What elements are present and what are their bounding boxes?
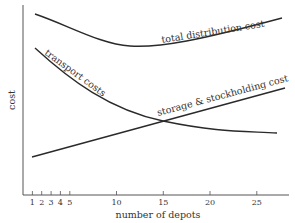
tick-label-4: 4 [58, 198, 63, 207]
tick-label-1: 1 [30, 198, 35, 207]
x-axis-label: number of depots [116, 209, 201, 220]
storage-stockholding-cost-label: storage & stockholding cost [156, 72, 290, 118]
tick-label-10: 10 [111, 198, 121, 207]
cost-vs-depots-chart: 1 2 3 4 5 10 15 20 25 number of depots c… [0, 0, 295, 223]
tick-label-5: 5 [67, 198, 72, 207]
tick-label-3: 3 [49, 198, 54, 207]
storage-stockholding-cost-curve [32, 88, 285, 157]
x-tick-labels: 1 2 3 4 5 10 15 20 25 [30, 198, 262, 207]
tick-label-2: 2 [39, 198, 44, 207]
y-axis-label: cost [6, 90, 17, 110]
transport-costs-label: transport costs [43, 47, 108, 99]
x-ticks [32, 191, 256, 195]
tick-label-25: 25 [252, 198, 262, 207]
tick-label-20: 20 [205, 198, 215, 207]
total-distribution-cost-label: total distribution cost [161, 18, 266, 45]
tick-label-15: 15 [158, 198, 168, 207]
